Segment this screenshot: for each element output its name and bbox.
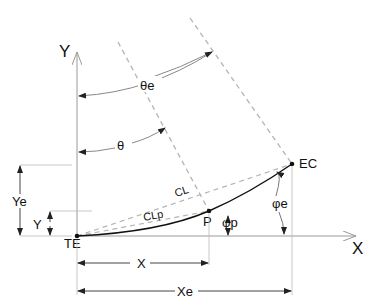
- transition-curve-diagram: Y X CL CLp TE P EC θe θ: [0, 0, 379, 307]
- extension-lines: [20, 165, 292, 295]
- point-ec-label: EC: [299, 156, 317, 171]
- point-te-label: TE: [64, 236, 81, 251]
- point-p: [207, 209, 212, 214]
- dim-ye-label: Ye: [12, 194, 27, 209]
- dim-x-label: X: [137, 256, 146, 271]
- phi-e-label: φe: [272, 196, 288, 211]
- y-axis-label: Y: [59, 42, 70, 61]
- theta-label: θ: [117, 138, 124, 153]
- chord-cl-label: CL: [173, 183, 190, 199]
- dim-y-label: Y: [33, 217, 42, 232]
- x-axis-label: X: [352, 239, 363, 258]
- chord-cl: [77, 164, 292, 236]
- point-ec: [290, 162, 295, 167]
- theta-e-label: θe: [140, 78, 154, 93]
- radial-line-p: [118, 42, 209, 211]
- phi-p-label: φp: [222, 215, 238, 230]
- radial-line-ec: [190, 18, 292, 164]
- point-p-label: P: [203, 214, 212, 229]
- dim-xe-label: Xe: [177, 284, 193, 299]
